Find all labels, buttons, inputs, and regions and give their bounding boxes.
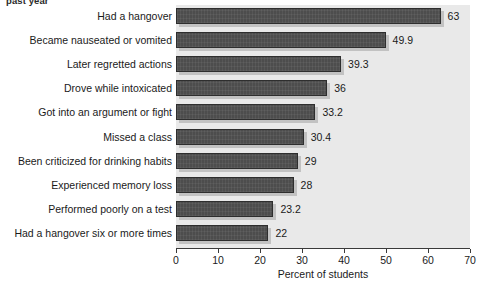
category-label: Later regretted actions (67, 58, 172, 71)
category-label: Performed poorly on a test (48, 203, 172, 216)
x-axis-tick-label: 60 (413, 254, 443, 267)
bar[interactable] (176, 177, 294, 193)
bar-row[interactable]: 29 (176, 152, 481, 174)
bar-value-label: 49.9 (393, 33, 413, 47)
bar-value-label: 29 (305, 154, 317, 168)
category-label: Got into an argument or fight (38, 106, 172, 119)
bar-row[interactable]: 39.3 (176, 55, 481, 77)
bar-row[interactable]: 22 (176, 224, 481, 246)
x-axis-tick-label: 70 (455, 254, 481, 267)
x-axis-tick (386, 249, 387, 253)
x-axis-tick-label: 10 (203, 254, 233, 267)
bar[interactable] (176, 8, 441, 24)
bar-row[interactable]: 30.4 (176, 128, 481, 150)
bar-row[interactable]: 36 (176, 79, 481, 101)
caption-text-fragment: past year (6, 0, 49, 6)
x-axis-tick-label: 0 (161, 254, 191, 267)
x-axis-tick (218, 249, 219, 253)
x-axis-tick (344, 249, 345, 253)
bar-value-label: 30.4 (311, 130, 331, 144)
category-label: Been criticized for drinking habits (18, 155, 172, 168)
category-label: Had a hangover (97, 10, 172, 23)
x-axis-tick (470, 249, 471, 253)
category-label: Drove while intoxicated (64, 82, 172, 95)
x-axis-tick (260, 249, 261, 253)
bar-row[interactable]: 33.2 (176, 103, 481, 125)
bar[interactable] (176, 32, 386, 48)
category-label: Missed a class (103, 131, 172, 144)
x-axis-tick-label: 40 (329, 254, 359, 267)
bar-value-label: 22 (275, 226, 287, 240)
bar-value-label: 63 (448, 9, 460, 23)
x-axis-tick (302, 249, 303, 253)
x-axis-tick-label: 20 (245, 254, 275, 267)
bar-row[interactable]: 49.9 (176, 31, 481, 53)
bar[interactable] (176, 104, 315, 120)
bar[interactable] (176, 80, 327, 96)
category-label: Had a hangover six or more times (14, 227, 172, 240)
bar-value-label: 36 (334, 81, 346, 95)
x-axis-title: Percent of students (176, 268, 470, 280)
bar-value-label: 39.3 (348, 57, 368, 71)
bar[interactable] (176, 201, 273, 217)
bar[interactable] (176, 129, 304, 145)
bar-value-label: 23.2 (280, 202, 300, 216)
x-axis-tick (428, 249, 429, 253)
category-label: Became nauseated or vomited (30, 34, 172, 47)
bar[interactable] (176, 225, 268, 241)
bar-value-label: 33.2 (322, 105, 342, 119)
x-axis-tick-label: 30 (287, 254, 317, 267)
bar-row[interactable]: 63 (176, 7, 481, 29)
x-axis-tick (176, 249, 177, 253)
category-label: Experienced memory loss (51, 179, 172, 192)
bar-row[interactable]: 23.2 (176, 200, 481, 222)
bar-row[interactable]: 28 (176, 176, 481, 198)
x-axis-line (176, 248, 470, 249)
bar-value-label: 28 (301, 178, 313, 192)
x-axis-tick-label: 50 (371, 254, 401, 267)
bar[interactable] (176, 56, 341, 72)
bar[interactable] (176, 153, 298, 169)
